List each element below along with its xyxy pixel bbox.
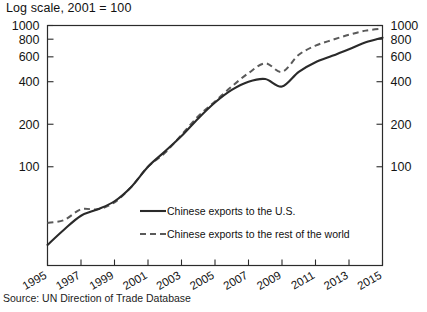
x-axis-tick-label: 2005 — [188, 269, 216, 290]
x-axis-tick-label: 2001 — [121, 269, 149, 290]
y-axis-left-tick-label: 1000 — [12, 19, 40, 33]
y-axis-left-labels: 1002004006008001000 — [12, 19, 40, 174]
y-axis-right-tick-label: 800 — [391, 33, 412, 47]
chart-canvas: 1002004006008001000 1002004006008001000 … — [0, 0, 427, 290]
y-axis-right-tick-label: 200 — [391, 118, 412, 132]
x-axis-tick-label: 1995 — [20, 269, 48, 290]
x-axis-labels: 1995199719992001200320052007200920112013… — [20, 269, 383, 290]
x-axis-tick-label: 2007 — [221, 269, 249, 290]
x-axis-tick-label: 2011 — [289, 269, 316, 290]
y-axis-left-tick-label: 200 — [19, 118, 40, 132]
x-axis-ticks — [48, 260, 383, 266]
chart-title: Log scale, 2001 = 100 — [6, 1, 131, 15]
legend-label-0: Chinese exports to the U.S. — [167, 205, 295, 217]
chart-figure: Log scale, 2001 = 100 100200400600800100… — [0, 0, 427, 312]
y-axis-left-ticks — [48, 26, 54, 167]
series-chinese-exports-to-the-rest-of-the-world — [48, 29, 383, 223]
x-axis-tick-label: 2013 — [322, 269, 350, 290]
chart-source: Source: UN Direction of Trade Database — [3, 292, 191, 304]
y-axis-left-tick-label: 100 — [19, 160, 40, 174]
y-axis-left-tick-label: 600 — [19, 50, 40, 64]
legend-label-1: Chinese exports to the rest of the world — [167, 228, 350, 240]
x-axis-tick-label: 2015 — [355, 269, 383, 290]
x-axis-tick-label: 2009 — [255, 269, 283, 290]
y-axis-right-labels: 1002004006008001000 — [391, 19, 419, 174]
y-axis-right-tick-label: 1000 — [391, 19, 419, 33]
chart-legend: Chinese exports to the U.S. Chinese expo… — [140, 205, 350, 240]
x-axis-tick-label: 1999 — [87, 269, 115, 290]
y-axis-right-tick-label: 100 — [391, 160, 412, 174]
y-axis-left-tick-label: 400 — [19, 75, 40, 89]
x-axis-tick-label: 1997 — [54, 269, 82, 290]
y-axis-right-ticks — [377, 26, 383, 167]
y-axis-right-tick-label: 400 — [391, 75, 412, 89]
y-axis-right-tick-label: 600 — [391, 50, 412, 64]
y-axis-left-tick-label: 800 — [19, 33, 40, 47]
x-axis-tick-label: 2003 — [154, 269, 182, 290]
